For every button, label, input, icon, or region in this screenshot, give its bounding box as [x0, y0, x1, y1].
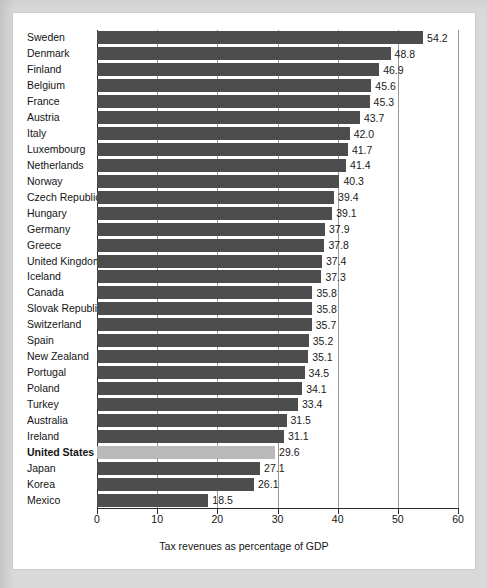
bar-series: 54.248.846.945.645.343.742.041.741.440.3… — [97, 30, 458, 508]
bar-value-label: 34.1 — [306, 383, 326, 394]
bar-row: 35.1 — [97, 350, 458, 363]
category-label-denmark: Denmark — [13, 47, 85, 60]
bar-value-label: 37.3 — [325, 272, 345, 283]
bar-row: 48.8 — [97, 47, 458, 60]
bar-sweden — [97, 31, 423, 44]
bar-value-label: 35.8 — [316, 288, 336, 299]
bar-row: 45.6 — [97, 79, 458, 92]
category-label-austria: Austria — [13, 111, 85, 124]
bar-row: 34.5 — [97, 366, 458, 379]
bar-value-label: 37.4 — [326, 256, 346, 267]
category-label-finland: Finland — [13, 63, 85, 76]
x-tick-label-30: 30 — [272, 514, 284, 525]
bar-value-label: 27.1 — [264, 463, 284, 474]
bar-ireland — [97, 430, 284, 443]
bar-value-label: 26.1 — [258, 479, 278, 490]
bar-row: 31.1 — [97, 430, 458, 443]
bar-value-label: 29.6 — [279, 447, 299, 458]
category-axis-labels: SwedenDenmarkFinlandBelgiumFranceAustria… — [13, 30, 93, 508]
category-label-canada: Canada — [13, 286, 85, 299]
bar-row: 41.7 — [97, 143, 458, 156]
bar-value-label: 35.2 — [313, 335, 333, 346]
bar-united-states — [97, 446, 275, 459]
bar-finland — [97, 63, 379, 76]
bar-korea — [97, 478, 254, 491]
x-tick-label-40: 40 — [332, 514, 344, 525]
bar-row: 39.1 — [97, 207, 458, 220]
category-label-germany: Germany — [13, 223, 85, 236]
bar-value-label: 42.0 — [354, 128, 374, 139]
bar-belgium — [97, 79, 371, 92]
x-axis-ticks: 0102030405060 — [97, 509, 458, 525]
category-label-spain: Spain — [13, 334, 85, 347]
bar-luxembourg — [97, 143, 348, 156]
bar-mexico — [97, 494, 208, 507]
category-label-japan: Japan — [13, 462, 85, 475]
x-tick-label-10: 10 — [151, 514, 163, 525]
category-label-new-zealand: New Zealand — [13, 350, 85, 363]
bar-row: 37.8 — [97, 239, 458, 252]
category-label-turkey: Turkey — [13, 398, 85, 411]
bar-value-label: 45.3 — [374, 96, 394, 107]
chart-card: SwedenDenmarkFinlandBelgiumFranceAustria… — [13, 13, 475, 569]
bar-portugal — [97, 366, 305, 379]
bar-value-label: 33.4 — [302, 399, 322, 410]
bar-row: 18.5 — [97, 494, 458, 507]
category-label-mexico: Mexico — [13, 494, 85, 507]
category-label-sweden: Sweden — [13, 31, 85, 44]
category-label-ireland: Ireland — [13, 430, 85, 443]
bar-slovak-republic — [97, 302, 312, 315]
gridline-60 — [458, 30, 459, 508]
category-label-greece: Greece — [13, 239, 85, 252]
bar-value-label: 39.1 — [336, 208, 356, 219]
bar-netherlands — [97, 159, 346, 172]
bar-row: 35.2 — [97, 334, 458, 347]
bar-value-label: 45.6 — [375, 81, 395, 92]
bar-row: 46.9 — [97, 63, 458, 76]
bar-japan — [97, 462, 260, 475]
bar-row: 39.4 — [97, 191, 458, 204]
bar-value-label: 35.7 — [316, 320, 336, 331]
bar-value-label: 39.4 — [338, 192, 358, 203]
bar-iceland — [97, 270, 321, 283]
x-axis-title: Tax revenues as percentage of GDP — [13, 540, 475, 552]
bar-value-label: 40.3 — [343, 176, 363, 187]
bar-row: 41.4 — [97, 159, 458, 172]
category-label-norway: Norway — [13, 175, 85, 188]
bar-row: 45.3 — [97, 95, 458, 108]
bar-row: 35.7 — [97, 318, 458, 331]
bar-canada — [97, 286, 312, 299]
bar-row: 37.4 — [97, 255, 458, 268]
bar-value-label: 31.1 — [288, 431, 308, 442]
category-label-united-states: United States — [13, 446, 85, 459]
bar-australia — [97, 414, 287, 427]
bar-row: 40.3 — [97, 175, 458, 188]
bar-value-label: 18.5 — [212, 495, 232, 506]
bar-greece — [97, 239, 324, 252]
bar-row: 35.8 — [97, 286, 458, 299]
bar-value-label: 41.7 — [352, 144, 372, 155]
bar-row: 42.0 — [97, 127, 458, 140]
category-label-hungary: Hungary — [13, 207, 85, 220]
category-label-portugal: Portugal — [13, 366, 85, 379]
bar-row: 35.8 — [97, 302, 458, 315]
x-tick-label-20: 20 — [211, 514, 223, 525]
bar-switzerland — [97, 318, 312, 331]
bar-czech-republic — [97, 191, 334, 204]
bar-new-zealand — [97, 350, 308, 363]
bar-turkey — [97, 398, 298, 411]
bar-value-label: 46.9 — [383, 65, 403, 76]
bar-poland — [97, 382, 302, 395]
bar-row: 26.1 — [97, 478, 458, 491]
bar-norway — [97, 175, 339, 188]
bar-austria — [97, 111, 360, 124]
bar-denmark — [97, 47, 391, 60]
page-caption-cutoff — [150, 579, 480, 588]
bar-hungary — [97, 207, 332, 220]
category-label-united-kingdom: United Kingdom — [13, 255, 85, 268]
category-label-italy: Italy — [13, 127, 85, 140]
x-tick-label-60: 60 — [452, 514, 464, 525]
category-label-france: France — [13, 95, 85, 108]
bar-value-label: 35.1 — [312, 351, 332, 362]
category-label-australia: Australia — [13, 414, 85, 427]
